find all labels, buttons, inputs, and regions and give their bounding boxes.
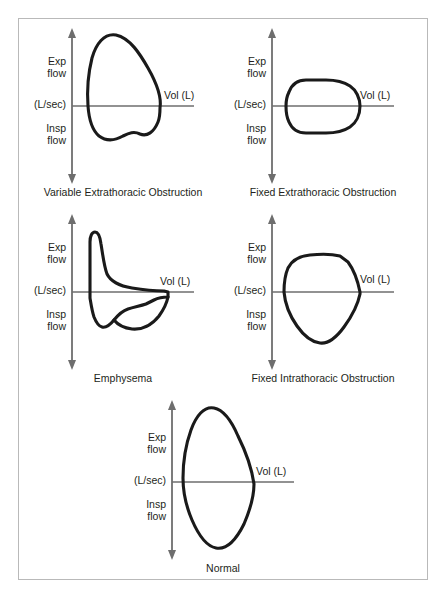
insp-flow-label-line2: flow <box>247 134 266 146</box>
flow-axis-arrow-down <box>268 174 276 184</box>
panel-fixed-extrathoracic-obstruction: Exp flow (L/sec) Insp flow Vol (L) Fixed… <box>228 26 418 204</box>
exp-flow-label-line1: Exp <box>48 55 66 67</box>
panel-caption: Emphysema <box>28 372 218 384</box>
loop-curve <box>284 254 360 343</box>
exp-flow-label-line2: flow <box>47 253 66 265</box>
volume-axis-label: Vol (L) <box>164 90 194 102</box>
panel-caption: Normal <box>128 562 318 574</box>
insp-flow-label: Insp flow <box>224 123 266 146</box>
flow-axis-arrow-up <box>168 400 176 410</box>
insp-flow-label: Insp flow <box>124 499 166 522</box>
origin-label: (L/sec) <box>12 99 66 111</box>
loop-curve <box>88 35 161 140</box>
origin-label: (L/sec) <box>12 285 66 297</box>
panel-emphysema: Exp flow (L/sec) Insp flow Vol (L) Emphy… <box>28 212 218 390</box>
flow-axis-arrow-down <box>68 360 76 370</box>
exp-flow-label-line2: flow <box>147 443 166 455</box>
origin-label: (L/sec) <box>112 475 166 487</box>
flow-axis-arrow-down <box>168 550 176 560</box>
flow-axis-arrow-up <box>268 214 276 224</box>
insp-flow-label-line1: Insp <box>46 122 66 134</box>
volume-axis-label: Vol (L) <box>256 466 286 478</box>
exp-flow-label-line2: flow <box>247 67 266 79</box>
exp-flow-label: Exp flow <box>224 56 266 79</box>
exp-flow-label: Exp flow <box>124 432 166 455</box>
panel-caption: Variable Extrathoracic Obstruction <box>28 186 218 198</box>
panel-caption: Fixed Intrathoracic Obstruction <box>228 372 418 384</box>
flow-axis-arrow-up <box>68 28 76 38</box>
flow-axis-arrow-up <box>268 28 276 38</box>
exp-flow-label-line1: Exp <box>48 241 66 253</box>
exp-flow-label: Exp flow <box>224 242 266 265</box>
volume-axis-label: Vol (L) <box>360 90 390 102</box>
insp-flow-label-line2: flow <box>47 320 66 332</box>
figure-caption <box>18 590 438 606</box>
insp-flow-label-line1: Insp <box>46 308 66 320</box>
exp-flow-label-line1: Exp <box>148 431 166 443</box>
insp-flow-label: Insp flow <box>24 309 66 332</box>
insp-flow-label-line2: flow <box>147 510 166 522</box>
panel-caption: Fixed Extrathoracic Obstruction <box>228 186 418 198</box>
insp-flow-label: Insp flow <box>224 309 266 332</box>
volume-axis-label: Vol (L) <box>360 274 390 286</box>
panel-normal: Exp flow (L/sec) Insp flow Vol (L) Norma… <box>128 396 318 574</box>
flow-axis-arrow-up <box>68 214 76 224</box>
flow-axis-arrow-down <box>68 174 76 184</box>
volume-axis-label: Vol (L) <box>160 276 190 288</box>
exp-flow-label-line1: Exp <box>248 241 266 253</box>
panel-fixed-intrathoracic-obstruction: Exp flow (L/sec) Insp flow Vol (L) Fixed… <box>228 212 418 390</box>
flow-axis-arrow-down <box>268 360 276 370</box>
exp-flow-label: Exp flow <box>24 242 66 265</box>
insp-flow-label-line1: Insp <box>246 308 266 320</box>
origin-label: (L/sec) <box>212 285 266 297</box>
exp-flow-label-line2: flow <box>47 67 66 79</box>
insp-flow-label-line1: Insp <box>146 498 166 510</box>
insp-flow-label-line1: Insp <box>246 122 266 134</box>
insp-flow-label: Insp flow <box>24 123 66 146</box>
loop-curve <box>90 232 168 327</box>
insp-flow-label-line2: flow <box>47 134 66 146</box>
loop-curve <box>183 408 254 549</box>
exp-flow-label: Exp flow <box>24 56 66 79</box>
insp-flow-label-line2: flow <box>247 320 266 332</box>
exp-flow-label-line2: flow <box>247 253 266 265</box>
origin-label: (L/sec) <box>212 99 266 111</box>
panel-variable-extrathoracic-obstruction: Exp flow (L/sec) Insp flow Vol (L) Varia… <box>28 26 218 204</box>
exp-flow-label-line1: Exp <box>248 55 266 67</box>
